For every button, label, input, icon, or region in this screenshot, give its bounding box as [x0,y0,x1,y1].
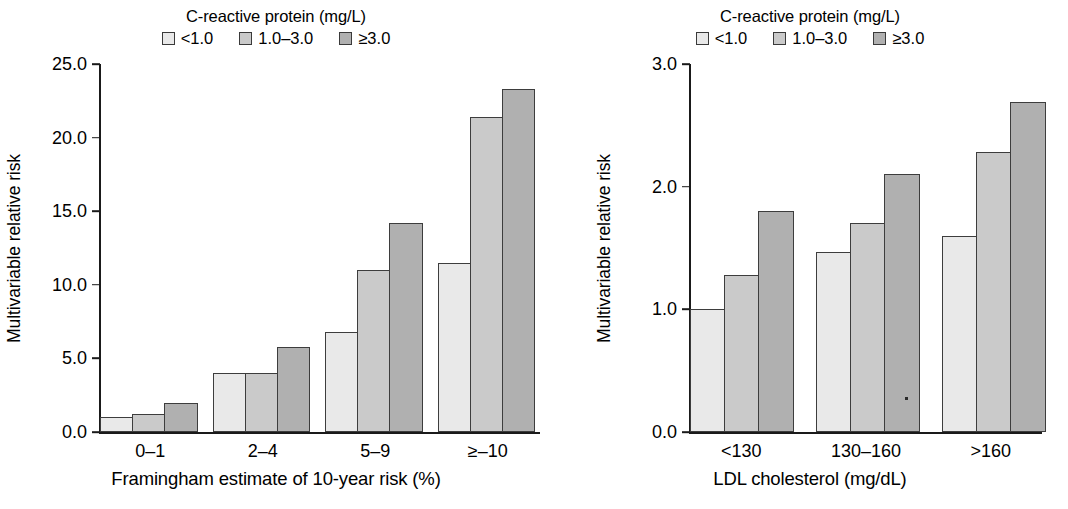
legend-item-label: ≥3.0 [358,29,390,47]
bar [850,223,886,432]
x-axis-category-label: ≥–10 [438,441,539,462]
y-axis-tick [92,431,100,433]
bar [690,309,726,432]
legend-title: C-reactive protein (mg/L) [0,6,552,26]
bar [884,174,920,432]
y-axis-tick-label: 0.0 [652,423,677,441]
legend-item: ≥3.0 [339,29,390,47]
bar-group [325,64,426,432]
legend-item-label: 1.0–3.0 [258,29,313,47]
bar [213,373,247,432]
print-speck [905,397,908,400]
x-axis-category-label: 5–9 [325,441,426,462]
x-axis-category-label: 0–1 [100,441,201,462]
x-axis-category-label: >160 [939,441,1042,462]
legend-item: ≥3.0 [873,29,924,47]
y-axis-label-text: Multivariable relative risk [594,154,615,343]
bar-group [213,64,314,432]
legend-items: <1.01.0–3.0≥3.0 [552,29,1068,47]
y-axis-tick-label: 1.0 [652,300,677,318]
y-axis-label: Multivariable relative risk [0,64,28,432]
legend-item-label: <1.0 [181,29,214,47]
bar-group [816,64,920,432]
bar [389,223,423,432]
y-axis-tick-label: 25.0 [52,55,87,73]
legend-item-label: <1.0 [715,29,748,47]
y-axis-tick [682,63,690,65]
chart-panel-left: C-reactive protein (mg/L) <1.01.0–3.0≥3.… [0,0,552,509]
legend-item: 1.0–3.0 [773,29,847,47]
x-axis-label: LDL cholesterol (mg/dL) [552,468,1068,490]
bar [1010,102,1046,432]
bar [502,89,536,432]
y-axis-tick [92,137,100,139]
y-axis-tick-label: 3.0 [652,55,677,73]
legend-item: 1.0–3.0 [239,29,313,47]
legend-swatch-icon [873,32,886,45]
y-axis-tick-label: 15.0 [52,202,87,220]
y-axis-tick [682,309,690,311]
y-axis-tick [92,284,100,286]
bar-groups [690,64,1042,432]
bar [245,373,279,432]
x-axis-category-label: 2–4 [213,441,314,462]
y-axis-label-text: Multivariable relative risk [4,154,25,343]
legend-items: <1.01.0–3.0≥3.0 [0,29,552,47]
y-axis-tick-label: 20.0 [52,129,87,147]
bar [164,403,198,432]
legend-item-label: ≥3.0 [892,29,924,47]
bar-group [942,64,1046,432]
y-axis-tick [682,431,690,433]
bar [325,332,359,432]
legend-item: <1.0 [162,29,214,47]
bar [816,252,852,432]
y-axis-tick [682,186,690,188]
legend-right: C-reactive protein (mg/L) <1.01.0–3.0≥3.… [552,6,1068,47]
x-axis-category-labels: 0–12–45–9≥–10 [100,441,540,462]
x-axis-category-label: 130–160 [815,441,918,462]
bar [100,417,134,432]
plot-area-left: 0.05.010.015.020.025.0 0–12–45–9≥–10 [100,64,540,432]
legend-swatch-icon [773,32,786,45]
legend-title: C-reactive protein (mg/L) [552,6,1068,26]
x-axis-category-label: <130 [690,441,793,462]
y-axis-tick [92,210,100,212]
chart-panel-right: C-reactive protein (mg/L) <1.01.0–3.0≥3.… [552,0,1068,509]
y-axis-tick-label: 10.0 [52,276,87,294]
x-axis-line [689,432,1042,434]
bar [758,211,794,432]
bar [438,263,472,432]
bar [942,236,978,432]
bar [132,414,166,432]
legend-item-label: 1.0–3.0 [792,29,847,47]
x-axis-label: Framingham estimate of 10-year risk (%) [0,468,552,490]
legend-swatch-icon [239,32,252,45]
legend-swatch-icon [339,32,352,45]
legend-swatch-icon [162,32,175,45]
bar-group [438,64,539,432]
y-axis-label: Multivariable relative risk [590,64,618,432]
legend-left: C-reactive protein (mg/L) <1.01.0–3.0≥3.… [0,6,552,47]
bar [357,270,391,432]
x-axis-category-labels: <130130–160>160 [690,441,1042,462]
bar [976,152,1012,432]
y-axis-tick-label: 0.0 [62,423,87,441]
y-axis-tick-label: 2.0 [652,178,677,196]
bar-groups [100,64,540,432]
y-axis-tick-label: 5.0 [62,349,87,367]
bar [277,347,311,432]
bar [724,275,760,432]
y-axis-tick [92,358,100,360]
legend-item: <1.0 [696,29,748,47]
bar [470,117,504,432]
bar-group [100,64,201,432]
legend-swatch-icon [696,32,709,45]
figure: C-reactive protein (mg/L) <1.01.0–3.0≥3.… [0,0,1068,509]
x-axis-line [99,432,540,434]
plot-area-right: 0.01.02.03.0 <130130–160>160 [690,64,1042,432]
bar-group [690,64,794,432]
y-axis-tick [92,63,100,65]
